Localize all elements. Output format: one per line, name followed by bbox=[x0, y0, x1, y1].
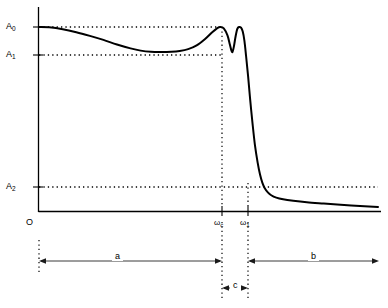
x-axis-label-omega-1: ω1 bbox=[240, 219, 250, 227]
y-axis-label-A0: A0 bbox=[6, 22, 16, 31]
chart-canvas bbox=[0, 0, 388, 308]
y-axis-label-A1: A1 bbox=[6, 50, 16, 59]
span-label-a: a bbox=[112, 252, 123, 261]
origin-label: O bbox=[26, 218, 33, 227]
span-label-c: c bbox=[230, 281, 241, 290]
span-arrow-a bbox=[39, 258, 222, 264]
y-axis-label-A2: A2 bbox=[6, 182, 16, 191]
x-axis-label-omega-c: ωc bbox=[214, 219, 223, 227]
filter-response-figure: A0 A1 A2 O ωc ω1 a b c bbox=[0, 0, 388, 308]
span-label-b: b bbox=[308, 252, 319, 261]
magnitude-response-curve bbox=[39, 27, 378, 207]
